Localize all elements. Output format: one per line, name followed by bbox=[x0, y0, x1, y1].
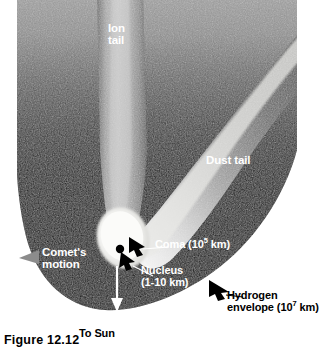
label-coma-text: Coma (10 bbox=[155, 238, 204, 250]
label-ion-tail: Ion tail bbox=[108, 22, 125, 47]
label-nucleus-title: Nucleus bbox=[141, 264, 183, 276]
figure-container: Ion tail Dust tail Comet's motion Coma (… bbox=[0, 0, 319, 353]
figure-caption: Figure 12.12 bbox=[4, 333, 79, 347]
label-hydrogen-title: Hydrogen bbox=[227, 289, 278, 301]
label-hydrogen-units: km) bbox=[297, 301, 319, 313]
label-to-sun: To Sun bbox=[79, 328, 115, 340]
label-nucleus: Nucleus(1-10 km) bbox=[141, 265, 188, 289]
label-coma: Coma (105 km) bbox=[155, 239, 230, 251]
label-hydrogen-envelope: Hydrogenenvelope (107 km) bbox=[227, 290, 319, 314]
nucleus-dot bbox=[116, 245, 124, 253]
label-comets-motion: Comet's motion bbox=[42, 246, 86, 271]
label-dust-tail: Dust tail bbox=[206, 154, 250, 166]
label-nucleus-size: (1-10 km) bbox=[141, 276, 188, 288]
label-coma-units: km) bbox=[208, 238, 230, 250]
label-hydrogen-text: envelope (10 bbox=[227, 301, 292, 313]
